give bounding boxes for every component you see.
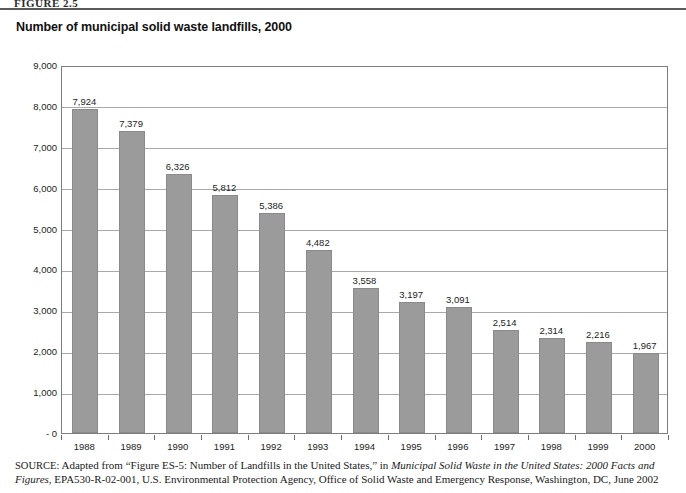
x-axis-tick bbox=[575, 435, 576, 440]
y-axis-tick-label: 7,000 bbox=[5, 142, 57, 153]
bar-1989[interactable] bbox=[119, 131, 145, 433]
x-axis-tick bbox=[108, 435, 109, 440]
x-axis-tick bbox=[248, 435, 249, 440]
y-axis: - 01,0002,0003,0004,0005,0006,0007,0008,… bbox=[0, 0, 57, 493]
y-axis-tick-label: 2,000 bbox=[5, 346, 57, 357]
bar-value-label: 4,482 bbox=[288, 237, 348, 248]
chart-title: Number of municipal solid waste landfill… bbox=[16, 20, 292, 34]
x-axis-tick-label: 2000 bbox=[615, 441, 675, 452]
bar-value-label: 3,558 bbox=[335, 275, 395, 286]
x-axis-tick bbox=[294, 435, 295, 440]
x-axis-tick bbox=[435, 435, 436, 440]
x-axis-tick bbox=[61, 435, 62, 440]
bar-1991[interactable] bbox=[212, 195, 238, 433]
bar-1990[interactable] bbox=[166, 174, 192, 433]
bar-value-label: 7,924 bbox=[54, 96, 114, 107]
bar-1993[interactable] bbox=[306, 250, 332, 433]
bar-value-label: 5,386 bbox=[241, 200, 301, 211]
bar-1997[interactable] bbox=[493, 330, 519, 433]
y-axis-tick-label: 4,000 bbox=[5, 264, 57, 275]
x-axis-tick bbox=[201, 435, 202, 440]
x-axis-tick bbox=[621, 435, 622, 440]
bar-value-label: 7,379 bbox=[101, 118, 161, 129]
x-axis-tick bbox=[154, 435, 155, 440]
source-note: SOURCE: Adapted from “Figure ES-5: Numbe… bbox=[15, 459, 675, 486]
bar-1998[interactable] bbox=[539, 338, 565, 433]
bar-1999[interactable] bbox=[586, 342, 612, 433]
gridline bbox=[62, 107, 667, 108]
bar-1996[interactable] bbox=[446, 307, 472, 433]
source-label: SOURCE: bbox=[15, 460, 59, 471]
bar-1994[interactable] bbox=[353, 288, 379, 433]
bar-value-label: 6,326 bbox=[148, 161, 208, 172]
x-axis-tick bbox=[341, 435, 342, 440]
gridline bbox=[62, 148, 667, 149]
bar-2000[interactable] bbox=[633, 353, 659, 433]
bar-value-label: 5,812 bbox=[194, 182, 254, 193]
bar-value-label: 3,091 bbox=[428, 294, 488, 305]
gridline bbox=[62, 271, 667, 272]
x-axis-tick bbox=[528, 435, 529, 440]
source-text-after: EPA530-R-02-001, U.S. Environmental Prot… bbox=[52, 473, 659, 485]
y-axis-tick-label: 8,000 bbox=[5, 101, 57, 112]
gridline bbox=[62, 230, 667, 231]
bar-1992[interactable] bbox=[259, 213, 285, 433]
bar-1995[interactable] bbox=[399, 302, 425, 433]
y-axis-tick-label: 9,000 bbox=[5, 60, 57, 71]
y-axis-tick-label: 6,000 bbox=[5, 183, 57, 194]
x-axis-tick bbox=[388, 435, 389, 440]
y-axis-tick-label: 1,000 bbox=[5, 387, 57, 398]
y-axis-tick-label: 3,000 bbox=[5, 305, 57, 316]
source-text-before: Adapted from “Figure ES-5: Number of Lan… bbox=[59, 459, 391, 471]
bar-1988[interactable] bbox=[72, 109, 98, 433]
y-axis-tick-label: 5,000 bbox=[5, 224, 57, 235]
header-rule bbox=[0, 8, 686, 10]
bar-value-label: 1,967 bbox=[615, 340, 675, 351]
gridline bbox=[62, 189, 667, 190]
y-axis-tick-label: - 0 bbox=[5, 428, 57, 439]
x-axis-tick bbox=[481, 435, 482, 440]
x-axis-tick bbox=[668, 435, 669, 440]
